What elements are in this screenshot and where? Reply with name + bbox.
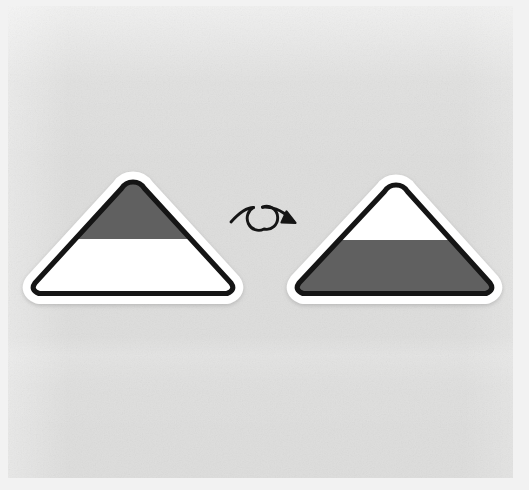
illustration <box>0 0 529 490</box>
loop-arrow-loop <box>247 206 277 230</box>
loop-arrow-group <box>231 206 296 230</box>
result-triangle-fills <box>285 170 505 300</box>
result-triangle-group <box>285 170 505 300</box>
source-triangle-group <box>20 170 250 299</box>
source-triangle-fills <box>20 170 250 299</box>
scene-canvas: Triangle flip transformation Two rounded… <box>0 0 529 490</box>
